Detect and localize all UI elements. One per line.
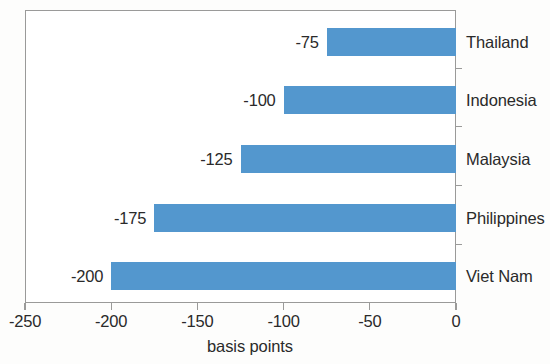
axis-minor-tick: [456, 185, 462, 186]
x-axis-tick: [197, 303, 198, 310]
chart-figure: -75 -100 -125 -175 -200 Thailand Indones…: [0, 0, 550, 364]
x-axis-tick: [455, 303, 456, 310]
category-label-vietnam: Viet Nam: [466, 262, 533, 290]
bar-indonesia: [284, 86, 456, 114]
x-axis-tick: [111, 303, 112, 310]
x-axis-tick-label: -250: [9, 312, 41, 331]
category-label-philippines: Philippines: [466, 204, 545, 232]
x-axis-tick-label: -100: [267, 312, 299, 331]
x-axis-tick: [24, 303, 25, 310]
bar-malaysia: [241, 145, 457, 173]
value-label-malaysia: -125: [0, 145, 233, 173]
category-label-malaysia: Malaysia: [466, 145, 530, 173]
value-label-thailand: -75: [0, 28, 319, 56]
value-label-vietnam: -200: [0, 262, 103, 290]
bar-thailand: [327, 28, 456, 56]
x-axis-tick-label: -50: [358, 312, 381, 331]
bar-philippines: [154, 204, 456, 232]
category-label-thailand: Thailand: [466, 28, 529, 56]
category-label-indonesia: Indonesia: [466, 86, 537, 114]
axis-minor-tick: [456, 126, 462, 127]
x-axis-tick: [283, 303, 284, 310]
x-axis-tick-label: -150: [181, 312, 213, 331]
bar-vietnam: [111, 262, 456, 290]
axis-minor-tick: [456, 68, 462, 69]
x-axis-tick-label: -200: [95, 312, 127, 331]
x-axis-title: basis points: [0, 337, 500, 356]
axis-minor-tick: [456, 244, 462, 245]
x-axis-tick-label: 0: [452, 312, 461, 331]
x-axis-tick: [369, 303, 370, 310]
value-label-indonesia: -100: [0, 86, 276, 114]
value-label-philippines: -175: [0, 204, 146, 232]
